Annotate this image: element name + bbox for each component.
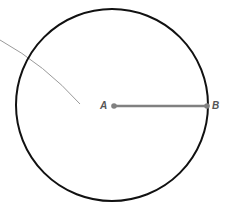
label-b: B (212, 100, 219, 111)
diagram-canvas: A B (0, 0, 230, 211)
construction-arc (0, 40, 80, 104)
point-b (204, 103, 210, 109)
label-a: A (99, 100, 107, 111)
point-a (111, 103, 117, 109)
